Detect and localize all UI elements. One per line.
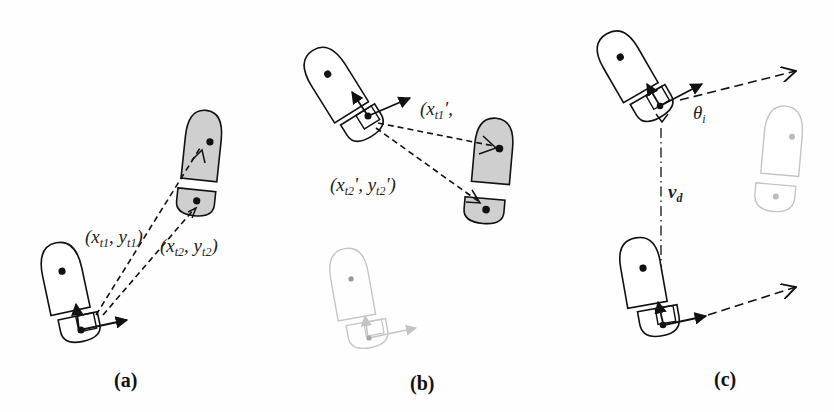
panel-a: (xt1, yt1) (xt2, yt2) (a) xyxy=(36,108,224,392)
label-xt2-yt2: (xt2, yt2) xyxy=(160,235,218,259)
caption-c: (c) xyxy=(714,368,736,391)
label-v-d: vd xyxy=(668,181,683,205)
target-footprint-b xyxy=(463,116,515,225)
dashed-direction-arrow-bottom xyxy=(708,287,796,315)
target-footprint-a xyxy=(175,108,224,217)
panel-c: θi vd (c) xyxy=(589,21,804,391)
robot-foot-faded-b xyxy=(326,244,416,353)
caption-a: (a) xyxy=(114,369,137,392)
robot-foot-bottom-c xyxy=(616,233,682,341)
robot-foot-left-a xyxy=(36,237,102,346)
label-xt1-yt1: (xt1, yt1) xyxy=(85,226,143,250)
caption-b: (b) xyxy=(410,372,434,395)
panel-b: (xt1', (xt2', yt2') (b) xyxy=(296,38,515,395)
robot-foot-top-c xyxy=(589,21,677,129)
figure-canvas: (xt1, yt1) (xt2, yt2) (a) (xt xyxy=(0,0,834,412)
label-xt2-yt2-prime: (xt2', yt2') xyxy=(330,174,396,198)
label-theta-i: θi xyxy=(693,102,706,126)
robot-foot-top-b xyxy=(296,38,388,150)
dashed-path-t2 xyxy=(103,208,195,315)
target-footprint-faded-c xyxy=(754,104,805,213)
label-xt1-prime: (xt1', xyxy=(420,98,453,122)
